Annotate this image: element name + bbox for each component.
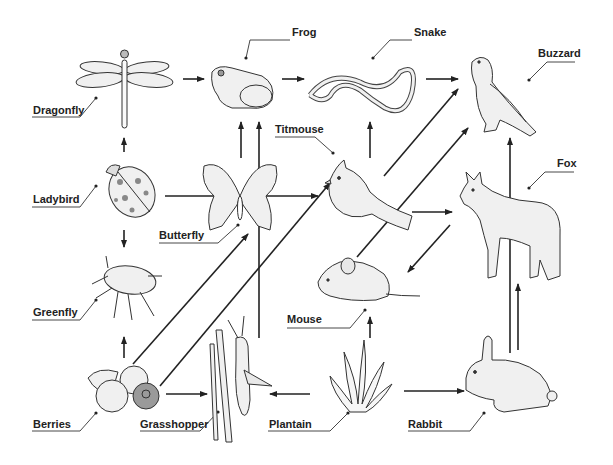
titmouse-icon bbox=[325, 160, 412, 230]
rabbit-icon bbox=[466, 336, 557, 412]
grasshopper-icon bbox=[210, 316, 272, 442]
dragonfly-icon bbox=[75, 50, 173, 128]
label-ladybird: Ladybird bbox=[33, 193, 79, 205]
ladybird-icon bbox=[100, 158, 164, 225]
label-frog: Frog bbox=[292, 26, 316, 38]
label-snake: Snake bbox=[414, 26, 446, 38]
label-grasshopper: Grasshopper bbox=[140, 418, 208, 430]
mouse-icon bbox=[318, 258, 420, 301]
snake-body-inner bbox=[310, 70, 414, 111]
arrow-fox-to-mouse bbox=[408, 225, 450, 272]
buzzard-icon bbox=[472, 57, 537, 136]
label-mouse: Mouse bbox=[287, 313, 322, 325]
label-buzzard: Buzzard bbox=[538, 47, 581, 59]
butterfly-icon bbox=[203, 165, 277, 230]
label-greenfly: Greenfly bbox=[33, 306, 78, 318]
label-berries: Berries bbox=[33, 418, 71, 430]
greenfly-icon bbox=[92, 256, 162, 320]
label-dragonfly: Dragonfly bbox=[33, 104, 84, 116]
arrow-titmouse-to-buzzard bbox=[384, 89, 458, 176]
label-butterfly: Butterfly bbox=[159, 229, 204, 241]
arrow-mouse-to-buzzard bbox=[357, 128, 468, 257]
label-plantain: Plantain bbox=[269, 418, 312, 430]
arrow-berries-to-butterfly bbox=[133, 234, 248, 364]
plantain-icon bbox=[330, 340, 392, 412]
food-web-diagram bbox=[0, 0, 613, 465]
label-fox: Fox bbox=[557, 157, 577, 169]
frog-icon bbox=[212, 67, 273, 109]
label-titmouse: Titmouse bbox=[275, 123, 324, 135]
label-rabbit: Rabbit bbox=[408, 418, 442, 430]
berries-icon bbox=[88, 366, 159, 412]
